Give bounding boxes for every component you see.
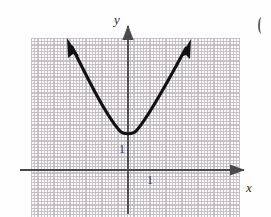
- parabola-curve: [72, 47, 186, 134]
- y-axis-label: y: [114, 12, 120, 28]
- y-axis-tick-label-1: 1: [119, 142, 125, 157]
- x-axis-tick-label-1: 1: [147, 173, 153, 188]
- curve-arrow-right-icon: [180, 39, 191, 59]
- curve-arrow-left-icon: [67, 38, 79, 58]
- graph-figure: y x 1 1: [0, 0, 271, 217]
- plot-canvas: [0, 0, 271, 217]
- edge-artifact-mark: [258, 17, 265, 34]
- x-axis-label: x: [246, 180, 252, 196]
